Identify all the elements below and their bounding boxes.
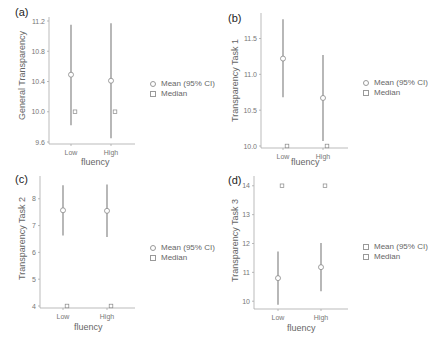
legend-item-median: Median [363,252,428,262]
x-tick-label: High [100,313,115,321]
legend-item-mean: Mean (95% CI) [150,79,215,89]
legend-item-mean: Mean (95% CI) [363,78,428,88]
x-tick-label: Low [57,313,71,320]
mean-marker [281,56,286,61]
median-marker [109,304,113,308]
y-tick-label: 9.6 [35,139,45,146]
x-tick-label: High [314,314,329,322]
legend: Mean (95% CI) Median [363,242,428,262]
y-tick-label: 11.2 [32,18,45,25]
square-marker-icon [363,244,369,250]
mean-marker [109,78,114,83]
y-tick-label: 12 [242,240,250,247]
mean-marker [105,208,110,213]
y-tick-label: 7 [32,222,36,229]
square-marker-icon [150,91,156,97]
legend-item-median: Median [150,89,215,99]
circle-marker-icon [150,245,156,251]
circle-marker-icon [150,81,156,87]
y-tick-label: 11.0 [244,71,257,78]
legend-item-mean: Mean (95% CI) [150,243,215,253]
y-tick-label: 11 [243,269,250,276]
mean-marker [69,72,74,77]
x-axis-label: fluency [81,157,110,167]
legend-item-mean: Mean (95% CI) [363,242,428,252]
legend: Mean (95% CI) Median [363,78,428,98]
median-marker [65,304,69,308]
panel-b: (b) Transparency Task 1 10.010.511.011.5… [224,0,448,170]
median-marker [113,110,117,114]
mean-marker [319,265,324,270]
square-marker-icon [363,90,369,96]
panel-d: (d) Transparency Task 3 1011121314LowHig… [224,170,448,340]
x-axis-label: fluency [291,157,320,167]
y-tick-label: 11.5 [244,35,257,42]
mean-marker [276,276,281,281]
x-tick-label: Low [272,314,286,321]
median-marker [73,110,77,114]
x-tick-label: Low [277,153,291,160]
legend: Mean (95% CI) Median [150,243,215,263]
legend-item-median: Median [150,253,215,263]
y-tick-label: 5 [32,276,36,283]
legend-item-median: Median [363,88,428,98]
y-tick-label: 8 [32,195,36,202]
square-marker-icon [150,255,156,261]
panel-a: (a) General Transparency 9.610.010.410.8… [0,0,224,170]
legend: Mean (95% CI) Median [150,79,215,99]
median-marker [285,144,289,148]
median-marker [280,184,284,188]
circle-marker-icon [363,80,369,86]
y-tick-label: 10.8 [31,48,45,55]
mean-marker [61,208,66,213]
panel-c: (c) Transparency Task 2 45678LowHigh flu… [0,170,224,340]
y-tick-label: 10.5 [243,107,257,114]
y-tick-label: 14 [242,182,250,189]
x-axis-label: fluency [287,323,316,333]
x-axis-label: fluency [74,322,103,332]
y-tick-label: 10.4 [31,78,45,85]
y-tick-label: 13 [242,211,250,218]
x-tick-label: High [104,149,119,157]
y-tick-label: 6 [32,249,36,256]
median-marker [323,184,327,188]
y-tick-label: 10.0 [31,108,45,115]
y-tick-label: 10.0 [243,143,257,150]
mean-marker [321,95,326,100]
y-tick-label: 4 [32,303,36,310]
x-tick-label: Low [65,149,79,156]
median-marker [325,144,329,148]
square-marker-icon [363,254,369,260]
y-tick-label: 10 [242,298,250,305]
